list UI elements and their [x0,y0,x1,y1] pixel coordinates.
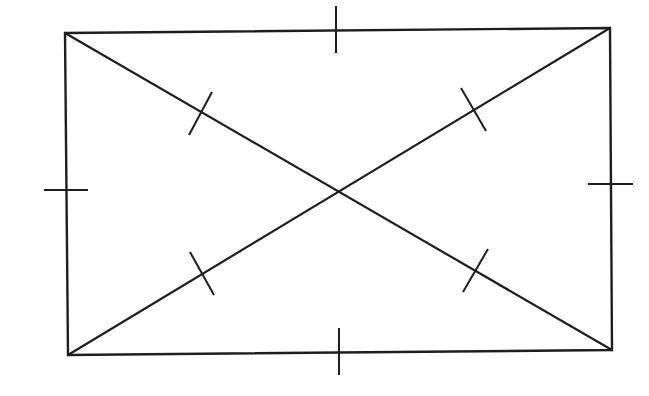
geometry-diagram [0,0,649,396]
tick-mark-bottom-left-half [190,252,214,295]
tick-mark-top-left-half [189,92,212,135]
tick-mark-top-right-half [461,88,486,131]
tick-mark-bottom-right-half [463,249,488,292]
diagonal-bl-tr [68,28,610,355]
rectangle-diagonals-figure [0,0,649,396]
diagonals [65,28,612,355]
